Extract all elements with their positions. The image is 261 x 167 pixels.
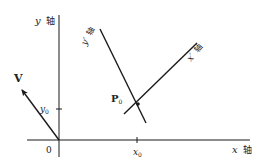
x-prime-axis xyxy=(124,43,197,114)
x0-subscript: 0 xyxy=(138,151,142,158)
x-axis-label: x 轴 xyxy=(232,144,252,155)
x0-label: x0 xyxy=(133,147,142,158)
rotated-axes-diagram: V y 轴 x 轴 0 y0 x0 P0 y′ 轴 x′ 轴 xyxy=(0,0,261,167)
p0-point xyxy=(136,102,140,106)
x-axis-suffix: 轴 xyxy=(243,144,252,155)
x-prime-axis-label: x′ 轴 xyxy=(185,42,205,63)
y-prime-axis xyxy=(100,29,146,123)
vector-v-label: V xyxy=(13,72,23,85)
y0-label: y0 xyxy=(39,104,49,115)
y-prime-letter: y′ xyxy=(78,36,91,48)
y-prime-suffix: 轴 xyxy=(84,25,97,37)
origin-label: 0 xyxy=(46,145,52,155)
y-axis-letter: y xyxy=(34,15,41,26)
p0-subscript: 0 xyxy=(119,98,123,105)
x-axis-letter: x xyxy=(232,144,238,155)
x-prime-suffix: 轴 xyxy=(191,42,204,54)
vector-v xyxy=(22,90,59,140)
y0-subscript: 0 xyxy=(45,108,49,115)
y-prime-axis-label: y′ 轴 xyxy=(78,25,96,47)
y-axis-label: y 轴 xyxy=(34,15,55,26)
p0-label: P0 xyxy=(111,93,123,105)
x-prime-letter: x′ xyxy=(185,51,197,63)
y-axis-suffix: 轴 xyxy=(46,15,55,26)
